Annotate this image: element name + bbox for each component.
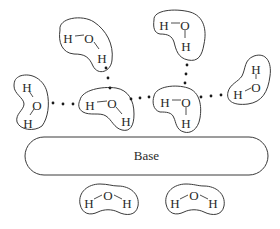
hydrogen-bond-dot — [184, 82, 187, 85]
hydrogen-atom: H — [23, 116, 32, 131]
hydrogen-atom: H — [160, 95, 169, 110]
hydrogen-bond-dot — [200, 96, 203, 99]
hydrogen-atom: H — [233, 87, 242, 102]
oxygen-atom: O — [32, 98, 41, 113]
base-label: Base — [134, 148, 160, 163]
hydrogen-atom: H — [84, 196, 93, 211]
hydrogen-atom: H — [208, 196, 217, 211]
oxygen-atom: O — [103, 188, 112, 203]
hydrogen-bond-dot — [185, 73, 188, 76]
hydrogen-atom: H — [97, 51, 106, 66]
oxygen-atom: O — [107, 96, 116, 111]
hydrogen-bond-dot — [148, 96, 151, 99]
hydrogen-atom: H — [170, 196, 179, 211]
oxygen-atom: O — [84, 31, 93, 46]
hydrogen-bond-dot — [210, 95, 213, 98]
hydrogen-bond-dot — [62, 103, 65, 106]
hydrogen-atom: H — [181, 39, 190, 54]
hydrogen-bond-dot — [139, 97, 142, 100]
background — [0, 0, 280, 229]
hydrogen-bond-dot — [52, 102, 55, 105]
hydrogen-atom: H — [122, 196, 131, 211]
hydrogen-bonding-diagram: Base HOHHOHHOHHOHHOHHOHHOHHOH — [0, 0, 280, 229]
hydrogen-atom: H — [181, 116, 190, 131]
oxygen-atom: O — [251, 80, 260, 95]
hydrogen-bond-dot — [130, 98, 133, 101]
hydrogen-bond-dot — [109, 87, 112, 90]
hydrogen-bond-dot — [107, 77, 110, 80]
hydrogen-atom: H — [85, 98, 94, 113]
hydrogen-bond-dot — [186, 64, 189, 67]
hydrogen-bond-dot — [105, 67, 108, 70]
oxygen-atom: O — [189, 188, 198, 203]
hydrogen-bond-dot — [72, 103, 75, 106]
hydrogen-bond-dot — [220, 94, 223, 97]
hydrogen-atom: H — [121, 114, 130, 129]
hydrogen-atom: H — [63, 31, 72, 46]
hydrogen-atom: H — [159, 18, 168, 33]
